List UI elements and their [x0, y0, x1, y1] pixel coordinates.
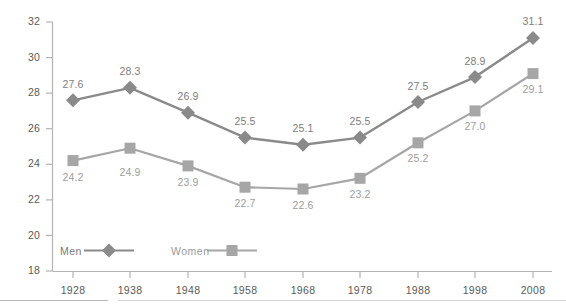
data-label-men-1958: 25.5 — [228, 115, 262, 127]
xtick-label-1948: 1948 — [165, 284, 211, 296]
y-axis-ticks — [46, 22, 53, 271]
data-label-men-1978: 25.5 — [343, 115, 377, 127]
ytick-label-20: 20 — [14, 230, 40, 241]
xtick-label-1958: 1958 — [222, 284, 268, 296]
xtick-label-1968: 1968 — [280, 284, 326, 296]
ytick-label-32: 32 — [14, 16, 40, 27]
xtick-label-2008: 2008 — [510, 284, 556, 296]
data-label-women-2008: 29.1 — [516, 83, 550, 95]
xtick-label-1978: 1978 — [337, 284, 383, 296]
ytick-label-24: 24 — [14, 158, 40, 169]
data-label-women-1988: 25.2 — [401, 152, 435, 164]
xtick-label-1928: 1928 — [50, 284, 96, 296]
data-label-men-1988: 27.5 — [401, 80, 435, 92]
line-chart: 32 30 28 26 24 22 20 18 1928 1938 1948 1… — [0, 0, 566, 306]
footer-rule-left — [0, 300, 108, 301]
plot-area — [0, 0, 566, 306]
data-label-men-1998: 28.9 — [458, 55, 492, 67]
legend-item-women[interactable]: Women — [171, 245, 210, 257]
ytick-label-26: 26 — [14, 123, 40, 134]
legend-men-mark — [84, 244, 134, 258]
ytick-label-30: 30 — [14, 52, 40, 63]
data-label-women-1958: 22.7 — [228, 197, 262, 209]
footer-rule-right — [118, 300, 566, 301]
x-axis-ticks — [73, 272, 533, 279]
data-label-women-1938: 24.9 — [113, 166, 147, 178]
ytick-label-18: 18 — [14, 265, 40, 276]
data-label-men-1948: 26.9 — [171, 90, 205, 102]
xtick-label-1938: 1938 — [107, 284, 153, 296]
xtick-label-1988: 1988 — [395, 284, 441, 296]
legend-women-mark — [207, 245, 257, 256]
data-label-men-2008: 31.1 — [516, 15, 550, 27]
ytick-label-22: 22 — [14, 194, 40, 205]
data-label-women-1968: 22.6 — [286, 199, 320, 211]
data-label-women-1998: 27.0 — [458, 120, 492, 132]
legend-item-men[interactable]: Men — [60, 245, 82, 257]
data-label-men-1968: 25.1 — [286, 122, 320, 134]
ytick-label-28: 28 — [14, 87, 40, 98]
data-label-men-1938: 28.3 — [113, 65, 147, 77]
data-label-women-1928: 24.2 — [56, 171, 90, 183]
xtick-label-1998: 1998 — [452, 284, 498, 296]
data-label-women-1978: 23.2 — [343, 188, 377, 200]
data-label-women-1948: 23.9 — [171, 176, 205, 188]
data-label-men-1928: 27.6 — [56, 78, 90, 90]
